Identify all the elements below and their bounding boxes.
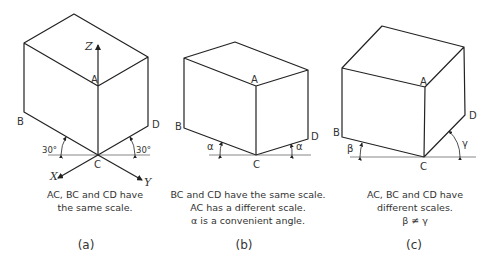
caption-line: AC has a different scale.: [168, 201, 328, 214]
caption-line: β ≠ γ: [340, 214, 490, 227]
angle-label-left-a: 30°: [42, 145, 57, 155]
y-axis-arrow: [98, 155, 142, 180]
vertex-b-label: B: [333, 127, 340, 138]
panel-a-figure: Z A B C D X Y 30° 30°: [17, 14, 160, 189]
caption-b: BC and CD have the same scale. AC has a …: [168, 188, 328, 227]
angle-label-right-b: α: [296, 141, 303, 152]
caption-line: AC, BC and CD have: [20, 188, 170, 201]
x-axis-label: X: [49, 170, 59, 183]
vertex-d-label: D: [469, 110, 477, 121]
angle-label-right-a: 30°: [136, 145, 151, 155]
vertex-a-label: A: [420, 76, 427, 87]
vertex-b-label: B: [175, 121, 182, 132]
box-c: [342, 26, 465, 157]
caption-line: α is a convenient angle.: [168, 214, 328, 227]
panel-label-a: (a): [66, 238, 106, 252]
panel-label-b: (b): [224, 238, 264, 252]
vertex-d-label: D: [311, 131, 319, 142]
angle-label-right-c: γ: [462, 138, 468, 149]
x-axis-arrow: [58, 155, 98, 178]
vertex-a-label: A: [251, 74, 258, 85]
caption-a: AC, BC and CD have the same scale.: [20, 188, 170, 214]
vertex-a-label: A: [91, 74, 98, 85]
box-b: [184, 42, 308, 155]
panel-b-figure: A B C D α α: [175, 42, 319, 170]
z-axis-label: Z: [84, 40, 93, 53]
vertex-c-label: C: [420, 161, 427, 172]
angle-arc-left-b: [220, 142, 222, 155]
caption-c: AC, BC and CD have different scales. β ≠…: [340, 188, 490, 227]
angle-arc-right-c: [449, 131, 460, 157]
caption-line: AC, BC and CD have: [340, 188, 490, 201]
angle-arc-right-a: [130, 137, 135, 155]
angle-label-left-c: β: [347, 143, 353, 154]
panel-c-figure: A B C D β γ: [333, 26, 477, 172]
angle-label-left-b: α: [207, 141, 214, 152]
caption-line: different scales.: [340, 201, 490, 214]
caption-line: BC and CD have the same scale.: [168, 188, 328, 201]
panel-label-c: (c): [394, 238, 434, 252]
vertex-d-label: D: [152, 119, 160, 130]
vertex-c-label: C: [94, 159, 101, 170]
box-a: [24, 14, 148, 155]
caption-line: the same scale.: [20, 201, 170, 214]
angle-arc-left-a: [61, 137, 66, 155]
vertex-b-label: B: [17, 116, 24, 127]
vertex-c-label: C: [253, 159, 260, 170]
angle-arc-right-b: [291, 144, 292, 155]
angle-arc-left-c: [360, 143, 362, 157]
